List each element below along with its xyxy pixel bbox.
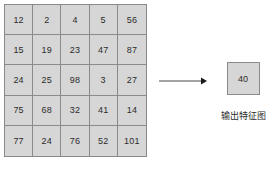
input-cell-r4-c3: 32: [61, 96, 89, 126]
input-cell-r3-c2: 25: [33, 65, 61, 95]
input-cell-r4-c2: 68: [33, 96, 61, 126]
input-cell-r3-c3: 98: [61, 65, 89, 95]
input-cell-r5-c2: 24: [33, 126, 61, 156]
input-cell-r5-c3: 76: [61, 126, 89, 156]
input-cell-r2-c3: 23: [61, 35, 89, 65]
output-feature-map-value: 40: [238, 74, 248, 84]
input-cell-r5-c1: 77: [5, 126, 33, 156]
right-arrow-icon: [159, 74, 207, 88]
input-cell-r1-c3: 4: [61, 5, 89, 35]
input-cell-r4-c1: 75: [5, 96, 33, 126]
input-cell-r1-c5: 56: [118, 5, 146, 35]
output-feature-map-block: 40 输出特征图: [214, 62, 272, 122]
output-feature-map-caption: 输出特征图: [221, 109, 266, 122]
input-cell-r3-c4: 3: [90, 65, 118, 95]
input-cell-r2-c2: 19: [33, 35, 61, 65]
input-cell-r2-c4: 47: [90, 35, 118, 65]
input-cell-r3-c1: 24: [5, 65, 33, 95]
input-cell-r5-c4: 52: [90, 126, 118, 156]
input-cell-r2-c1: 15: [5, 35, 33, 65]
input-cell-r4-c4: 41: [90, 96, 118, 126]
input-cell-r1-c4: 5: [90, 5, 118, 35]
input-cell-r5-c5: 101: [118, 126, 146, 156]
output-feature-map-cell: 40: [227, 62, 260, 95]
input-cell-r1-c1: 12: [5, 5, 33, 35]
input-cell-r3-c5: 27: [118, 65, 146, 95]
input-cell-r1-c2: 2: [33, 5, 61, 35]
input-cell-r2-c5: 87: [118, 35, 146, 65]
input-feature-map-grid: 1224556151923478724259832775683241147724…: [4, 4, 147, 157]
input-cell-r4-c5: 14: [118, 96, 146, 126]
